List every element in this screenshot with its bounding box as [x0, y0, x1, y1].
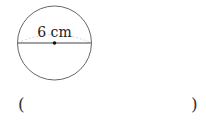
center-point [53, 41, 57, 45]
answer-blank[interactable] [32, 96, 187, 114]
open-paren: ( [18, 94, 25, 114]
close-paren: ) [191, 94, 198, 114]
diameter-label: 6 cm [37, 24, 71, 40]
